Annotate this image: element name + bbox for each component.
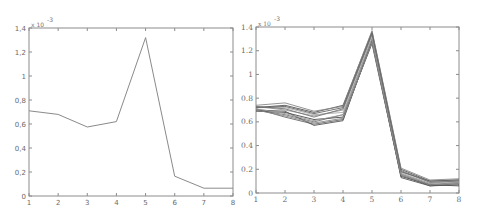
y-tick-label: 0.8 bbox=[241, 94, 253, 103]
series-line bbox=[256, 39, 459, 184]
y-tick-label: 0.6 bbox=[241, 117, 253, 126]
y-tick-label: 1,4 bbox=[15, 25, 27, 33]
x-tick-label: 5 bbox=[370, 195, 375, 204]
y-scale-exponent: -3 bbox=[274, 15, 280, 22]
x-tick-label: 7 bbox=[202, 199, 206, 207]
line-chart-multi: 1234567800.20.40.60.811.21.4x 10-3 bbox=[240, 0, 477, 214]
y-tick-label: 0,6 bbox=[15, 121, 27, 129]
line-chart-single: 1234567800,20,40,60,811,21,4x 10-3 bbox=[0, 0, 240, 214]
y-tick-label: 0,2 bbox=[15, 169, 26, 177]
x-tick-label: 6 bbox=[172, 199, 177, 207]
y-tick-label: 1 bbox=[248, 70, 253, 79]
y-tick-label: 0.4 bbox=[241, 141, 253, 150]
y-tick-label: 0 bbox=[248, 189, 253, 198]
y-tick-label: 0,4 bbox=[15, 145, 27, 153]
x-tick-label: 1 bbox=[27, 199, 31, 207]
y-tick-label: 0,8 bbox=[15, 97, 26, 105]
chart-left: 1234567800,20,40,60,811,21,4x 10-3 bbox=[0, 0, 240, 214]
x-tick-label: 5 bbox=[143, 199, 147, 207]
y-tick-label: 1 bbox=[22, 73, 26, 81]
x-tick-label: 6 bbox=[399, 195, 404, 204]
y-tick-label: 1.4 bbox=[241, 23, 253, 32]
x-tick-label: 3 bbox=[312, 195, 317, 204]
y-scale-exponent: -3 bbox=[47, 16, 53, 23]
x-tick-label: 1 bbox=[254, 195, 259, 204]
y-tick-label: 0.2 bbox=[241, 165, 253, 174]
y-tick-label: 0 bbox=[22, 193, 26, 201]
x-tick-label: 8 bbox=[457, 195, 462, 204]
x-tick-label: 2 bbox=[283, 195, 288, 204]
x-tick-label: 3 bbox=[85, 199, 89, 207]
series-line bbox=[29, 38, 233, 189]
y-tick-label: 1.2 bbox=[241, 46, 253, 55]
y-scale-label: x 10 bbox=[31, 21, 44, 28]
x-tick-label: 4 bbox=[341, 195, 346, 204]
x-tick-label: 2 bbox=[56, 199, 60, 207]
y-tick-label: 1,2 bbox=[15, 49, 26, 57]
x-tick-label: 7 bbox=[428, 195, 433, 204]
x-tick-label: 4 bbox=[114, 199, 119, 207]
y-scale-label: x 10 bbox=[258, 20, 271, 27]
series-line bbox=[256, 33, 459, 181]
axes-frame bbox=[29, 28, 233, 196]
x-tick-label: 8 bbox=[231, 199, 235, 207]
chart-right: 1234567800.20.40.60.811.21.4x 10-3 bbox=[240, 0, 477, 214]
